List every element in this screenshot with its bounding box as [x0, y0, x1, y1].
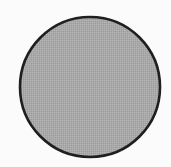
figure-canvas: [0, 0, 171, 167]
circle-figure: [0, 0, 171, 167]
gray-filled-circle: [20, 17, 160, 157]
